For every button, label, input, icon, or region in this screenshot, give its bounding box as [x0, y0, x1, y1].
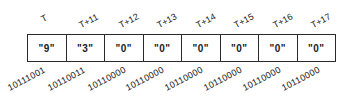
bit-pattern-label: 10110000: [280, 64, 322, 92]
bit-pattern-label: 10110000: [202, 64, 244, 92]
character-cell: "9": [28, 35, 67, 61]
bit-pattern-label: 10110011: [46, 65, 87, 93]
character-cell: "0": [182, 35, 221, 61]
bit-pattern-label: 10110000: [241, 64, 283, 92]
bit-pattern-label: 10110000: [124, 64, 166, 92]
character-cell: "0": [259, 35, 298, 61]
character-cell: "0": [144, 35, 183, 61]
character-cell: "3": [67, 35, 106, 61]
time-label: T+12: [117, 11, 140, 30]
time-label: T+15: [232, 11, 255, 30]
character-cells-row: "9" "3" "0" "0" "0" "0" "0" "0": [27, 34, 336, 62]
time-label: T+13: [155, 11, 178, 30]
time-label: T+17: [309, 11, 332, 30]
time-label: T+11: [77, 12, 99, 30]
character-timeline-diagram: T T+11 T+12 T+13 T+14 T+15 T+16 T+17 "9"…: [0, 0, 354, 99]
time-label: T+16: [271, 11, 294, 30]
bit-pattern-label: 10110000: [163, 64, 205, 92]
bit-pattern-label: 10110000: [86, 64, 128, 92]
bit-pattern-label: 10111001: [6, 65, 47, 93]
time-label: T: [39, 13, 49, 24]
character-cell: "0": [221, 35, 260, 61]
time-label: T+14: [194, 11, 217, 30]
character-cell: "0": [105, 35, 144, 61]
character-cell: "0": [298, 35, 336, 61]
